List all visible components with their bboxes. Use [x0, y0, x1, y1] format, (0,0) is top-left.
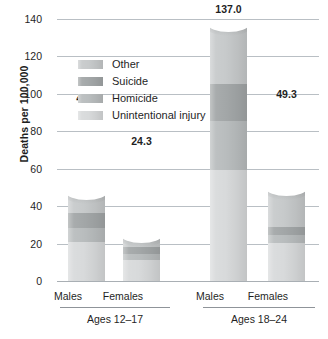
plot-area: 140 120 100 80 60 40 20 0 47.1 — [57, 19, 319, 281]
legend: Other Suicide Homicide Unintentional inj… — [78, 56, 206, 124]
legend-label-homicide: Homicide — [112, 92, 158, 104]
legend-label-other: Other — [112, 58, 140, 70]
bar-females-18-24[interactable] — [268, 189, 305, 281]
bar-value-females-12-17: 24.3 — [112, 135, 172, 147]
segment-suicide — [210, 84, 247, 121]
legend-item-other[interactable]: Other — [78, 56, 206, 72]
segment-unintentional-injury — [123, 260, 160, 282]
legend-item-homicide[interactable]: Homicide — [78, 90, 206, 106]
legend-swatch-homicide — [78, 94, 103, 103]
stacked-bar-chart: Deaths per 100,000 140 120 100 80 60 40 … — [0, 0, 328, 339]
bar-males-12-17[interactable] — [68, 193, 105, 281]
y-tick-label-20: 20 — [8, 238, 42, 250]
group-label-ages-18-24: Ages 18–24 — [194, 313, 324, 325]
x-label-males-18-24: Males — [178, 290, 242, 302]
segment-suicide — [268, 227, 305, 235]
segment-unintentional-injury — [68, 242, 105, 281]
y-tick-label-60: 60 — [8, 163, 42, 175]
legend-swatch-unintentional-injury — [78, 111, 103, 120]
gridline-140 — [57, 19, 319, 20]
y-tick-label-120: 120 — [8, 50, 42, 62]
segment-homicide — [268, 235, 305, 243]
bar-value-males-18-24: 137.0 — [199, 3, 259, 15]
segment-suicide — [68, 213, 105, 228]
y-tick-label-80: 80 — [8, 125, 42, 137]
segment-homicide — [68, 228, 105, 242]
group-label-ages-12-17: Ages 12–17 — [50, 313, 180, 325]
segment-suicide — [123, 247, 160, 254]
segment-homicide — [123, 254, 160, 260]
segment-unintentional-injury — [268, 243, 305, 281]
gridline-0-baseline — [57, 281, 319, 282]
bar-males-18-24[interactable] — [210, 25, 247, 281]
legend-swatch-other — [78, 60, 103, 69]
group-rule-ages-18-24 — [203, 307, 315, 308]
legend-label-unintentional-injury: Unintentional injury — [112, 109, 206, 121]
group-rule-ages-12-17 — [60, 307, 170, 308]
y-tick-label-40: 40 — [8, 200, 42, 212]
gridline-80 — [57, 131, 319, 132]
x-label-females-12-17: Females — [91, 290, 155, 302]
legend-item-suicide[interactable]: Suicide — [78, 73, 206, 89]
y-tick-label-0: 0 — [8, 275, 42, 287]
legend-swatch-suicide — [78, 77, 103, 86]
y-tick-label-140: 140 — [8, 13, 42, 25]
bar-value-females-18-24: 49.3 — [257, 88, 317, 100]
legend-label-suicide: Suicide — [112, 75, 148, 87]
x-label-females-18-24: Females — [236, 290, 300, 302]
segment-unintentional-injury — [210, 170, 247, 281]
y-tick-label-100: 100 — [8, 88, 42, 100]
segment-homicide — [210, 121, 247, 170]
bar-females-12-17[interactable] — [123, 236, 160, 282]
legend-item-unintentional-injury[interactable]: Unintentional injury — [78, 107, 206, 123]
gridline-60 — [57, 169, 319, 170]
